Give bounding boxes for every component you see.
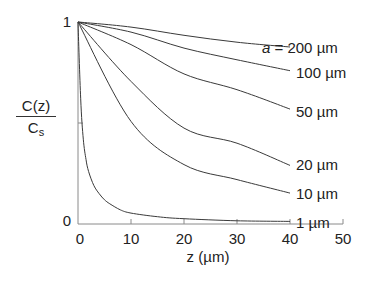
y-axis-label-denominator: Cs — [16, 117, 56, 138]
curve-series — [78, 22, 290, 71]
series-label: 20 µm — [296, 156, 338, 173]
curve-series — [78, 22, 290, 47]
series-label: 10 µm — [296, 185, 338, 202]
x-tick-label: 30 — [229, 230, 246, 247]
y-axis-label-denominator-main: C — [28, 119, 39, 136]
x-tick-label: 0 — [76, 230, 84, 247]
series-label: 1 µm — [296, 214, 330, 231]
y-tick-label: 0 — [63, 212, 71, 229]
series-label: 100 µm — [296, 64, 346, 81]
y-axis-label-numerator: C(z) — [16, 97, 56, 117]
series-label: a = 200 µm — [262, 39, 338, 56]
series-label: 50 µm — [296, 103, 338, 120]
x-tick-label: 10 — [123, 230, 140, 247]
chart: 01020304050 01 a = 200 µm100 µm50 µm20 µ… — [0, 0, 367, 281]
x-axis-label: z (µm) — [187, 248, 230, 265]
x-tick-label: 40 — [282, 230, 299, 247]
x-tick-label: 50 — [335, 230, 352, 247]
y-axis-label-denominator-sub: s — [39, 126, 45, 138]
x-tick-label: 20 — [176, 230, 193, 247]
y-tick-label: 1 — [63, 13, 71, 30]
curves — [78, 22, 290, 221]
curve-series — [78, 22, 290, 221]
y-axis-label: C(z) Cs — [16, 97, 56, 138]
curve-series — [78, 22, 290, 165]
y-ticks: 01 — [63, 13, 83, 229]
